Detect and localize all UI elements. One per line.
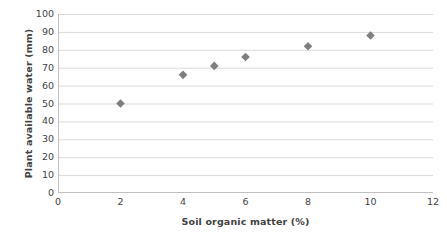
x-axis-tick-label: 12 (418, 196, 447, 207)
y-axis-tick-label: 20 (26, 152, 54, 162)
x-axis-tick-label: 8 (293, 196, 323, 207)
data-point-marker (304, 42, 313, 51)
x-axis-tick-labels: 024681012 (0, 196, 447, 212)
y-axis-tick-label: 100 (26, 9, 54, 19)
data-point-marker (179, 71, 188, 80)
x-axis-tick-label: 4 (168, 196, 198, 207)
y-axis-tick-label: 70 (26, 63, 54, 73)
x-axis-tick-label: 10 (356, 196, 386, 207)
plot-area (58, 14, 433, 193)
y-axis-tick-label: 60 (26, 81, 54, 91)
data-markers (116, 31, 375, 108)
x-axis-tick-label: 2 (106, 196, 136, 207)
x-axis-tick-label: 6 (231, 196, 261, 207)
plot-svg (58, 14, 433, 193)
y-axis-tick-label: 30 (26, 134, 54, 144)
data-point-marker (210, 62, 219, 71)
y-axis-tick-label: 50 (26, 99, 54, 109)
x-axis-tick-label: 0 (43, 196, 73, 207)
scatter-chart: Plant available water (mm) 0102030405060… (0, 0, 447, 244)
x-axis-title: Soil organic matter (%) (58, 216, 433, 227)
data-point-marker (241, 53, 250, 62)
y-axis-tick-label: 10 (26, 170, 54, 180)
data-point-marker (116, 99, 125, 108)
y-axis-tick-label: 40 (26, 116, 54, 126)
y-axis-tick-label: 90 (26, 27, 54, 37)
gridlines (58, 15, 433, 176)
y-axis-tick-label: 80 (26, 45, 54, 55)
